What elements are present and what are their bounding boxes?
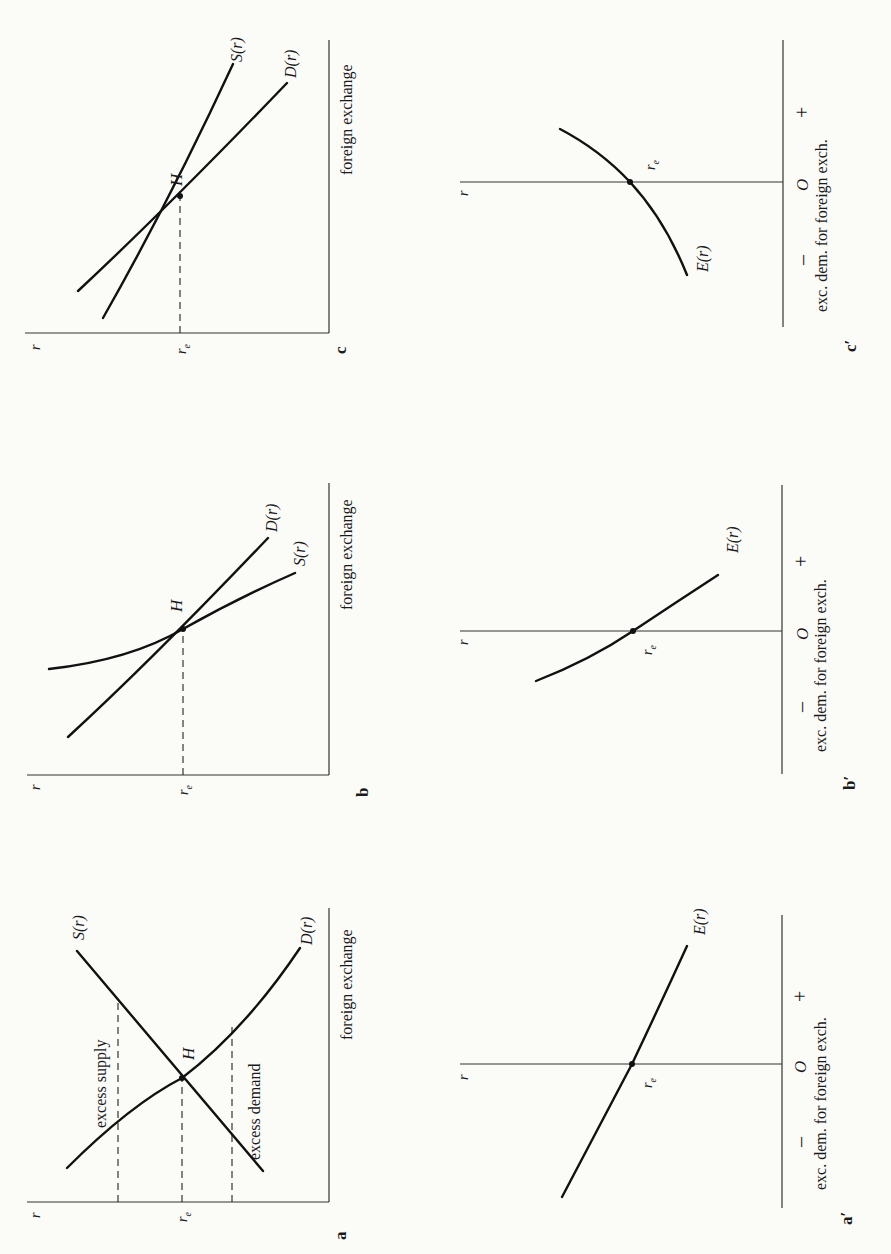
excess-demand-curve-label: E(r) bbox=[724, 526, 742, 554]
equilibrium-point bbox=[629, 1061, 635, 1067]
equilibrium-rate-label: re bbox=[176, 785, 194, 795]
equilibrium-rate-label: re bbox=[640, 1078, 658, 1088]
panel-b-prime: E(r) re r O – + exc. dem. for foreign ex… bbox=[456, 485, 859, 790]
origin-label: O bbox=[793, 628, 812, 640]
panel-b: H D(r) S(r) foreign exchange r re b bbox=[27, 483, 372, 797]
plus-sign: + bbox=[790, 556, 812, 567]
panel-c: H S(r) D(r) foreign exchange r re c bbox=[25, 37, 356, 354]
equilibrium-rate-label: re bbox=[175, 1212, 193, 1222]
origin-label: O bbox=[791, 1061, 810, 1073]
minus-sign: – bbox=[789, 1136, 811, 1148]
supply-curve bbox=[103, 64, 233, 318]
origin-label: O bbox=[793, 179, 812, 191]
x-axis-label: foreign exchange bbox=[338, 499, 356, 610]
r-axis-label: r bbox=[456, 190, 471, 196]
equilibrium-point-label: H bbox=[167, 598, 186, 613]
x-axis-label: exc. dem. for foreign exch. bbox=[812, 1017, 830, 1190]
supply-curve-label: S(r) bbox=[70, 915, 88, 940]
excess-supply-label: excess supply bbox=[92, 1040, 110, 1128]
equilibrium-point bbox=[630, 628, 636, 634]
r-axis-label: r bbox=[28, 1212, 43, 1218]
r-axis-label: r bbox=[456, 639, 471, 645]
x-axis-label: foreign exchange bbox=[338, 64, 356, 175]
equilibrium-point bbox=[180, 626, 186, 632]
supply-curve bbox=[49, 573, 295, 669]
excess-demand-curve bbox=[536, 575, 718, 681]
minus-sign: – bbox=[791, 254, 813, 266]
plus-sign: + bbox=[791, 107, 813, 118]
demand-curve-label: D(r) bbox=[263, 504, 281, 533]
excess-demand-label: excess demand bbox=[246, 1064, 263, 1160]
plus-sign: + bbox=[789, 991, 811, 1002]
equilibrium-point bbox=[627, 179, 633, 185]
equilibrium-point bbox=[179, 1075, 185, 1081]
panel-a: H S(r) D(r) excess supply excess demand … bbox=[27, 908, 356, 1240]
excess-demand-curve-label: E(r) bbox=[694, 245, 712, 273]
figure-canvas: H S(r) D(r) foreign exchange r re c H D(… bbox=[0, 0, 891, 1254]
minus-sign: – bbox=[790, 701, 812, 713]
demand-curve-label: D(r) bbox=[298, 917, 316, 946]
supply-curve-label: S(r) bbox=[228, 37, 246, 62]
r-axis-label: r bbox=[28, 784, 43, 790]
x-axis-label: foreign exchange bbox=[338, 929, 356, 1040]
demand-curve bbox=[78, 83, 287, 291]
panel-label: b′ bbox=[840, 776, 859, 790]
equilibrium-point-label: H bbox=[167, 172, 186, 187]
panel-a-prime: E(r) re r O – + exc. dem. for foreign ex… bbox=[456, 908, 856, 1225]
equilibrium-rate-label: re bbox=[174, 344, 192, 354]
panel-label: b bbox=[353, 788, 372, 797]
equilibrium-rate-label: re bbox=[640, 645, 658, 655]
equilibrium-point-label: H bbox=[179, 1046, 198, 1061]
x-axis-label: exc. dem. for foreign exch. bbox=[812, 579, 830, 752]
excess-demand-curve bbox=[560, 129, 687, 275]
excess-demand-curve bbox=[562, 946, 687, 1197]
x-axis-label: exc. dem. for foreign exch. bbox=[813, 139, 831, 312]
panel-label: c′ bbox=[841, 340, 860, 352]
r-axis-label: r bbox=[456, 1074, 471, 1080]
panel-label: a bbox=[331, 1231, 350, 1240]
demand-curve-label: D(r) bbox=[282, 50, 300, 79]
supply-curve-label: S(r) bbox=[291, 541, 309, 566]
excess-demand-curve-label: E(r) bbox=[691, 908, 709, 936]
equilibrium-rate-label: re bbox=[643, 160, 661, 170]
panel-label: c bbox=[331, 346, 350, 354]
equilibrium-point bbox=[177, 193, 183, 199]
r-axis-label: r bbox=[28, 344, 43, 350]
panel-c-prime: E(r) re r O – + exc. dem. for foreign ex… bbox=[456, 40, 860, 352]
panel-label: a′ bbox=[837, 1212, 856, 1225]
